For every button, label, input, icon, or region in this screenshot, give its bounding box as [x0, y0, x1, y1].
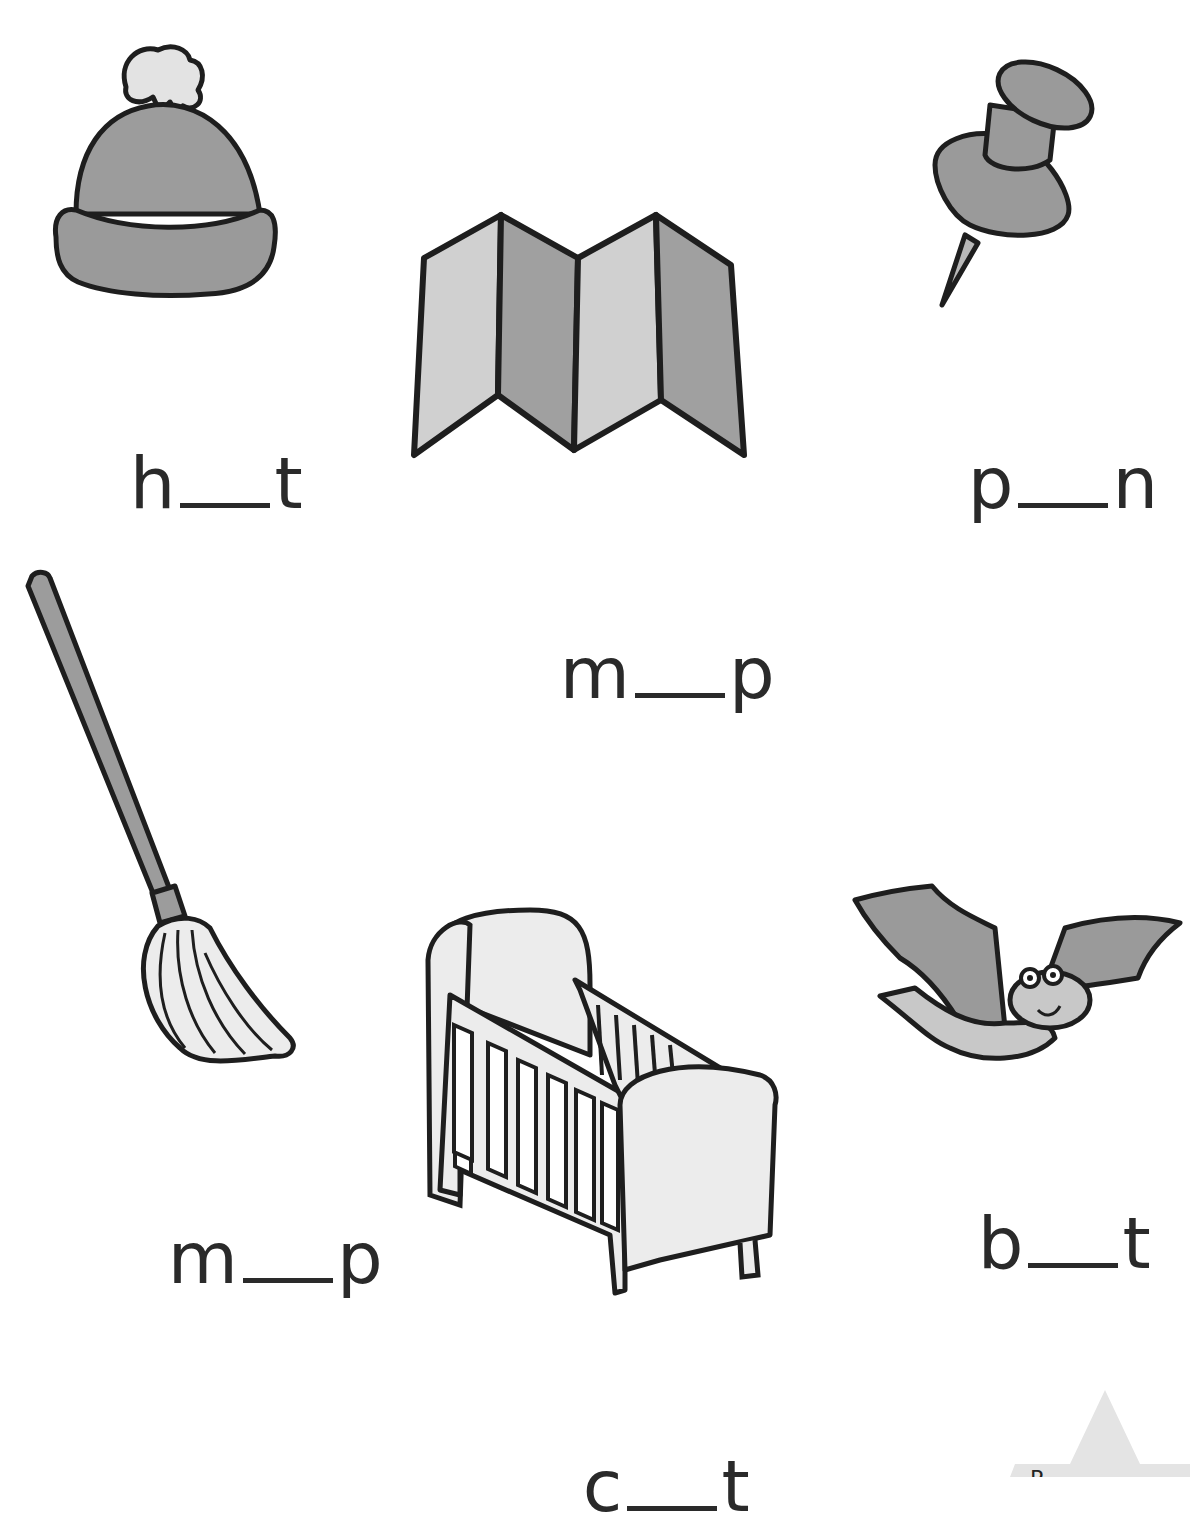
word-first-letter: m — [560, 631, 631, 715]
cot-picture — [420, 905, 780, 1295]
word-last-letter: p — [729, 631, 776, 715]
word-last-letter: t — [721, 1444, 750, 1516]
answer-blank[interactable] — [1028, 1262, 1118, 1268]
word-pin: pn — [920, 375, 1159, 519]
word-map: mp — [512, 565, 776, 709]
hat-picture — [48, 42, 280, 302]
bat-icon — [840, 878, 1190, 1068]
word-last-letter: n — [1112, 441, 1159, 525]
answer-blank[interactable] — [627, 1505, 717, 1511]
word-mop: mp — [120, 1150, 384, 1294]
star-icon — [990, 1382, 1190, 1477]
bat-picture — [840, 878, 1190, 1068]
word-last-letter: t — [1122, 1201, 1151, 1285]
hat-icon — [48, 42, 280, 302]
corner-label: P — [1030, 1466, 1043, 1477]
mop-icon — [20, 568, 310, 1073]
cot-icon — [420, 905, 780, 1295]
word-last-letter: p — [337, 1216, 384, 1300]
map-picture — [406, 210, 756, 465]
answer-blank[interactable] — [243, 1277, 333, 1283]
corner-star-badge: P — [990, 1382, 1190, 1477]
word-first-letter: p — [968, 441, 1015, 525]
pin-icon — [930, 55, 1100, 315]
word-hat: ht — [82, 375, 304, 519]
answer-blank[interactable] — [635, 692, 725, 698]
word-cot: ct — [535, 1378, 751, 1516]
word-last-letter: t — [274, 441, 303, 525]
mop-picture — [20, 568, 310, 1073]
answer-blank[interactable] — [1018, 502, 1108, 508]
word-first-letter: b — [978, 1201, 1025, 1285]
word-first-letter: h — [130, 441, 177, 525]
word-first-letter: c — [583, 1444, 624, 1516]
pin-picture — [930, 55, 1100, 315]
word-bat: bt — [930, 1135, 1152, 1279]
word-first-letter: m — [168, 1216, 239, 1300]
answer-blank[interactable] — [180, 502, 270, 508]
map-icon — [406, 210, 756, 465]
